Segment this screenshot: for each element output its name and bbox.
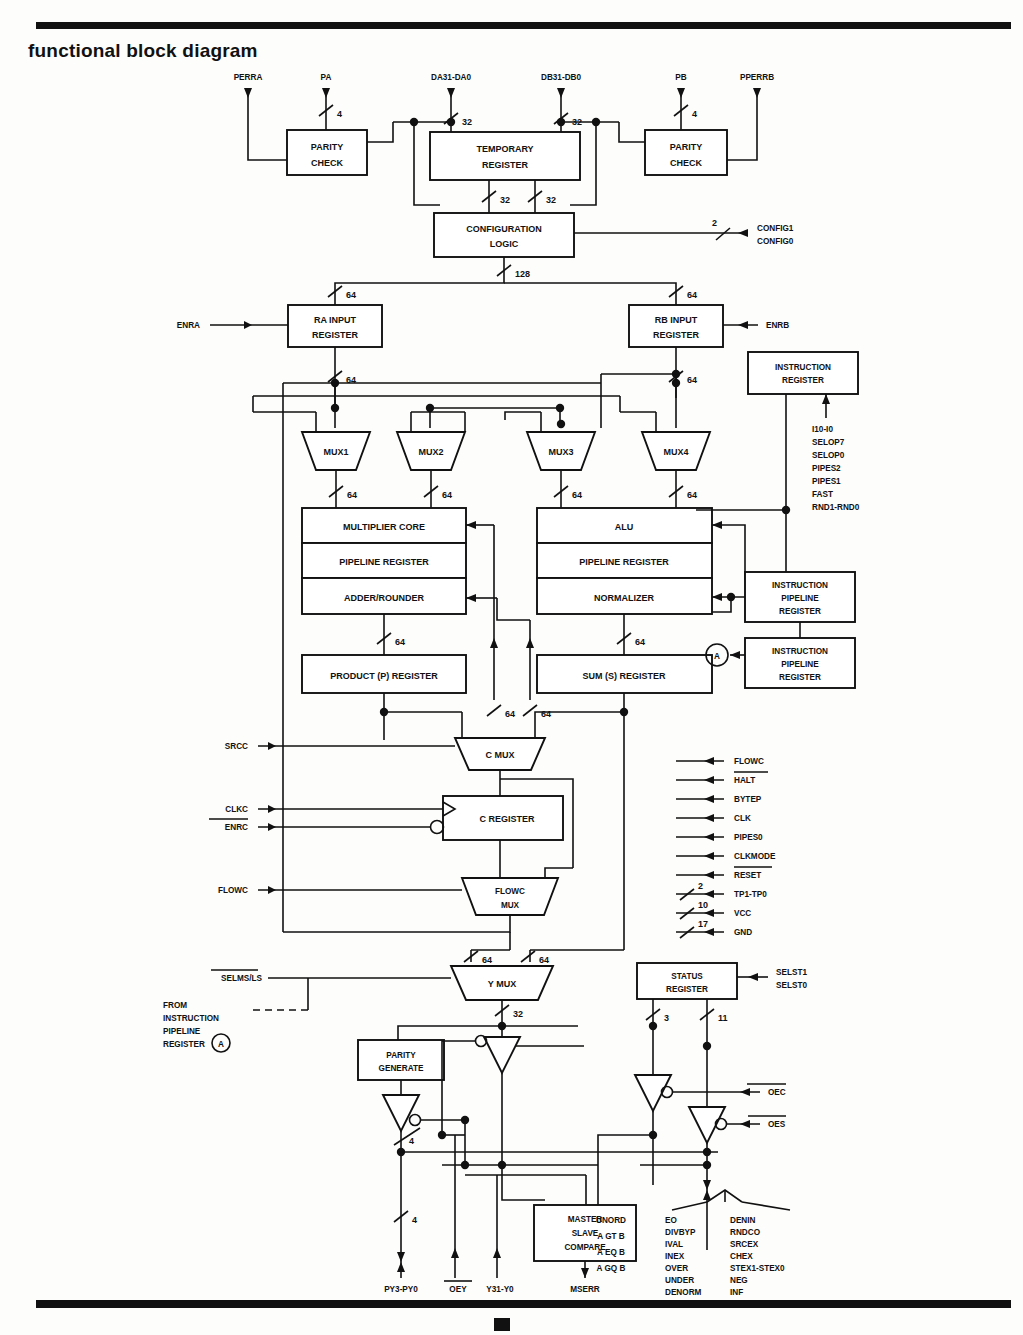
pin-label-pa: PA (321, 73, 332, 82)
status-flag-col1-6: DENORM (665, 1288, 702, 1297)
ipr2-line3: REGISTER (779, 673, 821, 682)
from-note-line3: PIPELINE (163, 1027, 201, 1036)
block-label-flowc-mux-line2: MUX (501, 901, 520, 910)
status-flag-col0-1: A GT B (597, 1232, 625, 1241)
bus-width-ra-in: 64 (346, 290, 356, 300)
block-label-configuration-logic-line1: CONFIGURATION (466, 224, 541, 234)
block-label-parity-check-b-line1: PARITY (670, 142, 702, 152)
block-label-mux3: MUX3 (548, 447, 573, 457)
buffer-y-icon (484, 1037, 520, 1073)
pin-label-enrb: ENRB (766, 321, 789, 330)
block-label-pipeline-register-alu: PIPELINE REGISTER (579, 557, 669, 567)
block-label-parity-check-a-line1: PARITY (311, 142, 343, 152)
block-parity-generate (358, 1040, 444, 1080)
buffer-oec-icon (635, 1075, 671, 1111)
from-note-line2: INSTRUCTION (163, 1014, 219, 1023)
status-flag-col2-3: CHEX (730, 1252, 753, 1261)
status-flag-col0-0: UNORD (596, 1216, 626, 1225)
block-label-alu: ALU (615, 522, 634, 532)
instruction-input-0: I10-I0 (812, 425, 833, 434)
ipr1-line2: PIPELINE (781, 594, 819, 603)
pin-label-da: DA31-DA0 (431, 73, 471, 82)
instruction-input-5: FAST (812, 490, 833, 499)
pin-label-y: Y31-Y0 (486, 1285, 514, 1294)
bus-width-rb-out: 64 (687, 375, 697, 385)
block-label-rb-input-register-line2: REGISTER (653, 330, 700, 340)
junction-dot (380, 708, 388, 716)
control-signal-label-5: CLKMODE (734, 852, 776, 861)
pin-label-selst1: SELST1 (776, 968, 807, 977)
bus-width-py-out: 4 (412, 1215, 417, 1225)
status-flag-col1-2: IVAL (665, 1240, 683, 1249)
pin-label-enra: ENRA (177, 321, 200, 330)
pin-label-oey: OEY (449, 1285, 467, 1294)
control-signal-label-3: CLK (734, 814, 751, 823)
status-flag-col2-6: INF (730, 1288, 743, 1297)
block-label-y-mux: Y MUX (488, 979, 516, 989)
block-label-product-register: PRODUCT (P) REGISTER (330, 671, 438, 681)
control-signal-label-2: BYTEP (734, 795, 762, 804)
block-label-ra-input-register-line2: REGISTER (312, 330, 359, 340)
control-signal-label-0: FLOWC (734, 757, 764, 766)
bus-width-pb: 4 (692, 109, 697, 119)
control-signal-label-6: RESET (734, 871, 761, 880)
block-label-mux1: MUX1 (323, 447, 348, 457)
bus-width-temp-right: 32 (546, 195, 556, 205)
block-label-c-mux: C MUX (486, 750, 515, 760)
ipr1-line1: INSTRUCTION (772, 581, 828, 590)
bus-width-mux1-out: 64 (347, 490, 357, 500)
control-signal-width-9: 17 (698, 919, 708, 929)
bus-width-pa: 4 (337, 109, 342, 119)
pin-label-enrc: ENRC (225, 823, 248, 832)
block-label-ra-input-register-line1: RA INPUT (314, 315, 357, 325)
block-ra-input-register (288, 305, 382, 347)
bus-width-mux3-out: 64 (572, 490, 582, 500)
block-label-parity-generate-line1: PARITY (386, 1051, 416, 1060)
buffer-bubble-icon (410, 1115, 421, 1126)
block-label-parity-generate-line2: GENERATE (379, 1064, 424, 1073)
enable-bubble-icon (431, 821, 444, 834)
instruction-input-2: SELOP0 (812, 451, 845, 460)
junction-dot (649, 1022, 657, 1030)
block-label-multiplier-core: MULTIPLIER CORE (343, 522, 425, 532)
status-flag-col1-0: EO (665, 1216, 677, 1225)
ipr2-line2: PIPELINE (781, 660, 819, 669)
block-parity-check-b (645, 130, 727, 175)
bus-width-config: 2 (712, 218, 717, 228)
control-signal-label-8: VCC (734, 909, 751, 918)
pin-label-mserr: MSERR (570, 1285, 600, 1294)
status-flag-col0-2: A EQ B (597, 1248, 625, 1257)
instruction-input-1: SELOP7 (812, 438, 845, 447)
bus-width-s-in: 64 (635, 637, 645, 647)
bus-width-status-right: 11 (718, 1013, 728, 1023)
junction-dot (557, 118, 565, 126)
block-label-normalizer: NORMALIZER (594, 593, 654, 603)
pin-label-db: DB31-DB0 (541, 73, 581, 82)
block-label-instruction-register-line1: INSTRUCTION (775, 363, 831, 372)
block-label-configuration-logic-line2: LOGIC (490, 239, 519, 249)
junction-dot (672, 379, 680, 387)
block-instruction-register (748, 352, 858, 394)
bus-width-rb-in: 64 (687, 290, 697, 300)
junction-dot (703, 1042, 711, 1050)
pin-label-clkc: CLKC (225, 805, 248, 814)
connector-a-label: A (714, 652, 720, 661)
bus-width-temp-left: 32 (500, 195, 510, 205)
control-signal-label-9: GND (734, 928, 752, 937)
bus-width-da: 32 (462, 117, 472, 127)
block-label-c-register: C REGISTER (479, 814, 535, 824)
block-label-rb-input-register-line1: RB INPUT (655, 315, 698, 325)
status-flag-col1-3: INEX (665, 1252, 685, 1261)
buffer-oes-icon (689, 1107, 725, 1143)
status-flag-col2-5: NEG (730, 1276, 748, 1285)
bus-width-ymux-out: 32 (513, 1009, 523, 1019)
instruction-input-6: RND1-RND0 (812, 503, 860, 512)
block-label-adder-rounder: ADDER/ROUNDER (344, 593, 425, 603)
block-parity-check-a (287, 130, 367, 175)
instruction-input-3: PIPES2 (812, 464, 841, 473)
junction-dot (331, 404, 339, 412)
control-signal-width-7: 2 (698, 881, 703, 891)
control-signal-label-4: PIPES0 (734, 833, 763, 842)
status-flag-col2-0: DENIN (730, 1216, 756, 1225)
bus-width-ymux-left: 64 (482, 955, 492, 965)
